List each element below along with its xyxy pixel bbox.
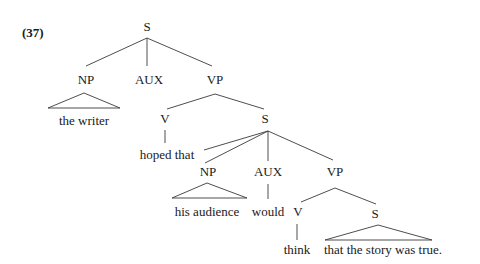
node-aux-root: AUX (135, 73, 163, 87)
leaf-think: think (284, 243, 311, 257)
leaf-that-the-story-was-true: that the story was true. (324, 243, 442, 257)
leaf-hoped-that: hoped that (140, 148, 195, 162)
leaf-his-audience: his audience (175, 205, 240, 219)
node-s-innermost: S (371, 207, 378, 221)
leaf-the-writer: the writer (59, 114, 109, 128)
node-vp-embedded: VP (327, 165, 344, 179)
node-vp-root: VP (207, 73, 224, 87)
node-s-embedded: S (261, 112, 268, 126)
example-number: (37) (22, 26, 44, 40)
node-v-embedded: V (293, 205, 302, 219)
node-aux-embedded: AUX (254, 165, 282, 179)
node-s-root: S (143, 20, 150, 34)
tree-edges (0, 0, 480, 264)
node-np-embedded: NP (200, 165, 217, 179)
node-np-subject: NP (78, 73, 95, 87)
node-v-main: V (160, 112, 169, 126)
leaf-would: would (252, 205, 285, 219)
